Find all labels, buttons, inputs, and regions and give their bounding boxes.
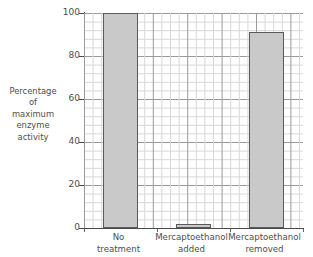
x-axis-category-label-line: removed <box>228 244 301 256</box>
plot-area <box>84 13 303 228</box>
bar <box>249 32 284 228</box>
x-axis-category-label-line: Mercaptoethanol <box>155 232 228 244</box>
y-axis-tick-label: 40 <box>58 137 80 146</box>
bar-chart-figure: Percentage of maximum enzyme activity 02… <box>0 0 313 257</box>
y-axis-tick-labels: 020406080100 <box>56 0 80 257</box>
y-axis-title-line-1: Percentage <box>2 86 64 97</box>
y-axis-tick-label: 100 <box>58 8 80 17</box>
y-axis-title-line-5: activity <box>2 132 64 143</box>
y-axis-tick-label: 20 <box>58 180 80 189</box>
x-axis-category-label: Notreatment <box>82 232 155 255</box>
bar <box>176 224 211 228</box>
x-axis-category-label-line: No <box>82 232 155 244</box>
y-axis-title-line-4: enzyme <box>2 120 64 131</box>
y-axis-tick-label: 60 <box>58 94 80 103</box>
y-axis-tick-label: 80 <box>58 51 80 60</box>
x-axis-category-labels: NotreatmentMercaptoethanoladdedMercaptoe… <box>84 232 306 257</box>
y-axis-title-line-3: maximum <box>2 109 64 120</box>
x-axis-category-label-line: treatment <box>82 244 155 256</box>
x-axis-category-label: Mercaptoethanolremoved <box>228 232 301 255</box>
bar <box>103 13 138 228</box>
y-axis-title: Percentage of maximum enzyme activity <box>2 86 64 143</box>
y-axis-tick-label: 0 <box>58 223 80 232</box>
x-axis-category-label: Mercaptoethanoladded <box>155 232 228 255</box>
x-axis-category-label-line: added <box>155 244 228 256</box>
x-axis-category-label-line: Mercaptoethanol <box>228 232 301 244</box>
y-axis-title-line-2: of <box>2 97 64 108</box>
